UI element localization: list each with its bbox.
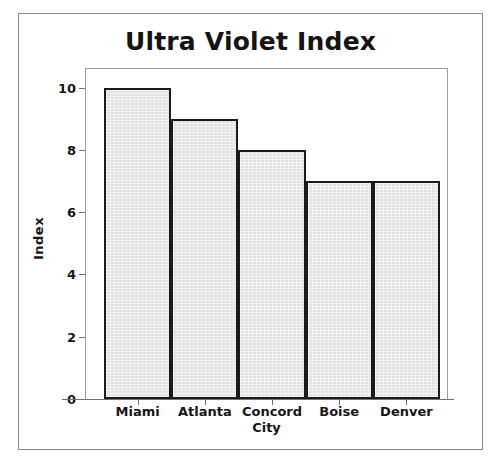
bars-container	[86, 69, 447, 399]
x-tick-label-atlanta: Atlanta	[178, 404, 232, 420]
chart-title: Ultra Violet Index	[18, 27, 483, 57]
y-tick-mark-8	[79, 150, 85, 151]
bar-denver	[373, 181, 440, 399]
chart-figure: Ultra Violet Index 0246810 Index MiamiAt…	[0, 0, 500, 467]
bar-atlanta	[171, 119, 238, 399]
y-tick-label-10: 10	[58, 81, 76, 94]
x-tick-label-denver: Denver	[380, 404, 433, 420]
y-tick-mark-4	[79, 274, 85, 275]
bar-miami	[104, 88, 171, 399]
x-tick-label-concord: Concord	[242, 404, 302, 420]
y-axis-title: Index	[28, 198, 50, 278]
y-axis-title-text: Index	[32, 216, 47, 259]
x-tick-label-miami: Miami	[116, 404, 160, 420]
y-tick-label-6: 6	[67, 206, 76, 219]
y-axis-tick-labels: 0246810	[46, 68, 76, 400]
x-tick-label-boise: Boise	[319, 404, 359, 420]
x-axis-title: City	[85, 420, 448, 436]
y-tick-label-4: 4	[67, 268, 76, 281]
x-axis-line	[62, 399, 454, 400]
bar-boise	[306, 181, 373, 399]
bar-concord	[238, 150, 305, 399]
y-tick-label-8: 8	[67, 143, 76, 156]
y-tick-mark-6	[79, 212, 85, 213]
y-tick-mark-2	[79, 337, 85, 338]
y-tick-label-2: 2	[67, 330, 76, 343]
y-tick-mark-10	[79, 88, 85, 89]
